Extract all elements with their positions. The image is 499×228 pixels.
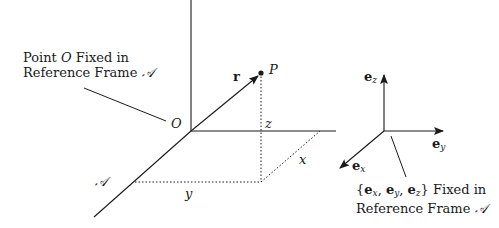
set-close-brace: } (421, 182, 429, 197)
basis-annotation-frame-text: Reference Frame (356, 201, 470, 216)
point-p-label: P (269, 62, 278, 77)
set-ex: e (364, 182, 372, 197)
set-ey-sub: y (394, 188, 399, 198)
vector-r-label: r (233, 69, 240, 84)
ex-label: ex (352, 158, 365, 177)
ez-label-sub: z (372, 75, 377, 85)
basis-annotation-fixed: Fixed in (433, 182, 486, 197)
ey-label: ey (432, 136, 445, 155)
x-projection (261, 131, 320, 182)
ez-label: ez (364, 69, 377, 88)
basis-annotation-frame: 𝒜 (475, 201, 487, 216)
set-ez: e (408, 182, 416, 197)
set-ex-sub: x (373, 188, 378, 198)
origin-annotation-word: Point (23, 50, 57, 65)
x-axis (94, 131, 191, 217)
origin-annotation-fixed: Fixed in (76, 50, 129, 65)
y-coordinate-label: y (185, 186, 192, 201)
position-vector-r (191, 76, 258, 131)
ey-label-sub: y (440, 142, 445, 152)
origin-annotation-frame: 𝒜 (142, 65, 154, 80)
origin-annotation-frame-text: Reference Frame (23, 65, 137, 80)
origin-annotation-var: O (61, 50, 72, 65)
origin-label: O (171, 116, 182, 131)
origin-annotation: Point O Fixed in Reference Frame 𝒜 (23, 50, 154, 80)
basis-annotation: {ex, ey, ez} Fixed in Reference Frame 𝒜 (356, 182, 487, 216)
basis-leader-line (391, 136, 406, 177)
origin-leader-line (84, 88, 166, 121)
frame-a-label: 𝒜 (95, 174, 107, 189)
ex-label-sub: x (360, 164, 365, 174)
x-coordinate-label: x (299, 152, 306, 167)
z-coordinate-label: z (265, 116, 272, 131)
set-ey: e (386, 182, 394, 197)
